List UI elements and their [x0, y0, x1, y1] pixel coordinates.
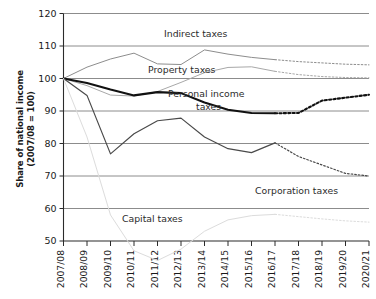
personal-income-taxes-l1: Personal income [168, 88, 245, 99]
personal-income-taxes-l2: taxes [196, 101, 221, 112]
indirect-taxes-label: Indirect taxes [164, 28, 227, 39]
series-line-solid [64, 79, 276, 261]
y-tick-label: 70 [44, 170, 56, 181]
y-tick-label: 100 [38, 73, 56, 84]
x-tick-label: 2009/10 [102, 250, 113, 288]
y-tick-label: 60 [44, 203, 56, 214]
series-line-forecast [275, 95, 369, 114]
y-tick-label: 50 [44, 235, 56, 246]
y-tick-label: 90 [44, 105, 56, 116]
x-tick-label: 2020/21 [360, 250, 371, 288]
y-tick-label: 80 [44, 138, 56, 149]
series-line-forecast [275, 214, 369, 222]
x-tick-label: 2015/16 [243, 250, 254, 288]
x-tick-label: 2019/20 [337, 250, 348, 288]
x-axis: 2007/082008/092009/102010/112011/122012/… [55, 241, 372, 288]
x-tick-label: 2011/12 [149, 250, 160, 288]
series-group [64, 50, 370, 261]
series-line-forecast [275, 71, 369, 78]
x-tick-label: 2014/15 [219, 250, 230, 288]
series-line-forecast [275, 143, 369, 176]
x-tick-label: 2018/19 [313, 250, 324, 288]
y-tick-label: 110 [38, 40, 56, 51]
x-tick-label: 2010/11 [125, 250, 136, 288]
x-tick-label: 2008/09 [78, 250, 89, 288]
y-axis: 5060708090100110120 [38, 8, 63, 247]
x-tick-label: 2007/08 [55, 250, 66, 288]
corporation-taxes-label: Corporation taxes [255, 185, 338, 196]
x-tick-label: 2017/18 [290, 250, 301, 288]
line-chart-svg: 5060708090100110120 2007/082008/092009/1… [0, 0, 376, 299]
series-line-forecast [275, 60, 369, 65]
x-tick-label: 2012/13 [172, 250, 183, 288]
chart-container: Share of national income (2007/08 = 100)… [0, 0, 376, 299]
annotations-group: Indirect taxesProperty taxesPersonal inc… [122, 28, 338, 224]
x-tick-label: 2013/14 [196, 250, 207, 288]
y-tick-label: 120 [38, 8, 56, 19]
x-tick-label: 2016/17 [266, 250, 277, 288]
capital-taxes-label: Capital taxes [122, 213, 183, 224]
property-taxes-label: Property taxes [148, 64, 216, 75]
